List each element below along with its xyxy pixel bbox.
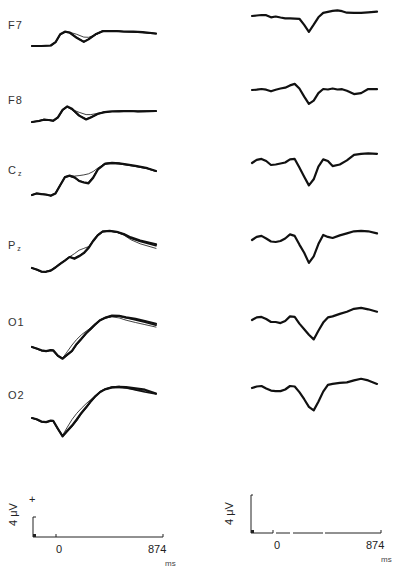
waveform-left-f7-thin	[32, 31, 156, 46]
x-unit-left: ms	[165, 559, 176, 568]
amplitude-label-left: 4 μV	[7, 502, 19, 526]
waveform-left-pz-thick-b	[32, 231, 156, 272]
waveform-left-pz-thick-a	[32, 231, 156, 272]
waveform-left-o2-thick-a	[32, 387, 156, 437]
x-unit-right: ms	[381, 555, 392, 564]
channel-labels: F7 F8 Cz Pz O1 O2	[8, 19, 25, 401]
scale-bar-left: + 4 μV 0 874 ms	[7, 493, 176, 568]
waveform-left-o2-thin	[32, 388, 156, 436]
waveform-left-f7-thick-b	[32, 31, 156, 46]
channel-label-o2: O2	[8, 389, 25, 401]
channel-label-f8: F8	[8, 94, 23, 106]
waveform-right-f7-difference	[252, 10, 377, 31]
x-tick-end-left: 874	[148, 543, 166, 555]
waveform-right-o1-difference	[252, 308, 377, 340]
polarity-plus-left: +	[29, 493, 35, 505]
waveform-left-cz-thin	[32, 163, 156, 196]
corner-mark-left	[33, 534, 36, 537]
waveform-left-o2-thick-b	[32, 387, 156, 437]
waveform-left-o1-thick-a	[32, 316, 156, 359]
x-tick-zero-left: 0	[56, 543, 62, 555]
waveform-left-cz-thick-b	[32, 163, 156, 195]
waveform-right-f8-difference	[252, 84, 377, 104]
channel-label-o1: O1	[8, 316, 25, 328]
waveform-traces	[32, 10, 377, 436]
channel-label-pz: Pz	[8, 239, 22, 252]
waveform-right-cz-difference	[252, 153, 377, 185]
x-tick-end-right: 874	[366, 539, 384, 551]
corner-mark-right	[251, 530, 254, 533]
waveform-left-f7-thick-a	[32, 31, 156, 46]
erp-figure: F7 F8 Cz Pz O1 O2 + 4 μV 0 874 ms 4 μV 0…	[0, 0, 397, 579]
amplitude-bar-right	[251, 495, 253, 533]
waveform-left-cz-thick-a	[32, 163, 156, 196]
waveform-right-o2-difference	[252, 379, 377, 411]
scale-bar-right: 4 μV 0 874 ms	[223, 495, 392, 564]
channel-label-f7: F7	[8, 19, 23, 31]
waveform-left-pz-thin	[32, 231, 156, 272]
waveform-left-o1-thick-b	[32, 316, 156, 359]
waveform-left-o1-thin	[32, 317, 156, 358]
channel-label-cz: Cz	[8, 164, 22, 177]
waveform-right-pz-difference	[252, 231, 377, 263]
amplitude-label-right: 4 μV	[223, 501, 235, 525]
x-tick-zero-right: 0	[274, 539, 280, 551]
